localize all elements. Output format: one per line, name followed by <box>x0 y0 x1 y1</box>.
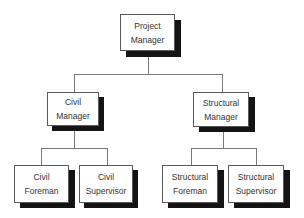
node-label-line2: Supervisor <box>86 184 127 198</box>
node-label-line2: Foreman <box>24 184 58 198</box>
node-label-line1: Civil <box>98 170 114 184</box>
connector-civil-bus <box>41 148 108 149</box>
node-civil-manager: Civil Manager <box>47 92 104 131</box>
connector-to-civil-manager <box>74 74 75 92</box>
node-label-line2: Foreman <box>173 184 207 198</box>
node-label-line1: Project <box>134 19 160 33</box>
node-label-line2: Supervisor <box>236 184 277 198</box>
org-chart: Project Manager Civil Manager Structural… <box>0 0 304 218</box>
connector-to-structural-manager <box>222 74 223 92</box>
node-box: Structural Supervisor <box>228 165 284 203</box>
node-box: Civil Supervisor <box>79 165 133 203</box>
node-project-manager: Project Manager <box>120 14 181 57</box>
node-label-line1: Civil <box>65 95 81 109</box>
node-label-line1: Structural <box>203 96 239 110</box>
node-label-line2: Manager <box>56 109 90 123</box>
node-civil-foreman: Civil Foreman <box>14 165 75 208</box>
node-box: Civil Foreman <box>14 165 69 203</box>
node-label-line2: Manager <box>131 33 165 47</box>
node-box: Structural Foreman <box>162 165 218 203</box>
node-structural-foreman: Structural Foreman <box>162 165 224 208</box>
connector-to-civil-supervisor <box>107 148 108 165</box>
node-structural-supervisor: Structural Supervisor <box>228 165 290 208</box>
node-box: Project Manager <box>120 14 175 51</box>
node-label-line1: Structural <box>172 170 208 184</box>
node-label-line1: Structural <box>238 170 274 184</box>
connector-structural-bus <box>191 148 257 149</box>
node-structural-manager: Structural Manager <box>193 92 255 132</box>
node-box: Civil Manager <box>47 92 99 126</box>
node-civil-supervisor: Civil Supervisor <box>79 165 138 208</box>
connector-level2-bus <box>74 74 223 75</box>
connector-to-civil-foreman <box>41 148 42 165</box>
node-box: Structural Manager <box>193 92 249 127</box>
connector-to-structural-foreman <box>191 148 192 165</box>
node-label-line2: Manager <box>204 110 238 124</box>
connector-to-structural-supervisor <box>256 148 257 165</box>
node-label-line1: Civil <box>33 170 49 184</box>
